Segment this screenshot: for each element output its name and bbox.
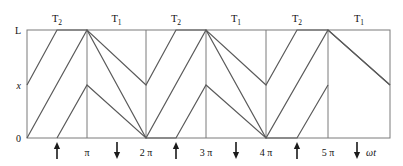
top-label-text: T1 <box>111 13 121 27</box>
y-axis-label-0: 0 <box>16 133 21 144</box>
arrow-up-5 <box>294 142 300 159</box>
top-label-T1: T1 <box>111 13 121 27</box>
waveform-upper-sawtooth <box>27 30 390 85</box>
top-label-text: T2 <box>52 13 62 27</box>
waveform-lower-sawtooth <box>27 30 390 138</box>
top-label-subscript: 2 <box>58 18 62 27</box>
top-label-T1: T1 <box>354 13 364 27</box>
top-label-text: T1 <box>231 13 241 27</box>
x-tick-label-3pi: 3 π <box>200 147 213 158</box>
arrow-head-up <box>294 142 300 149</box>
top-label-text: T2 <box>292 13 302 27</box>
top-label-T1: T1 <box>231 13 241 27</box>
top-label-text: T1 <box>354 13 364 27</box>
top-label-T2: T2 <box>52 13 62 27</box>
top-label-text: T2 <box>171 13 181 27</box>
arrow-up-3 <box>173 142 179 159</box>
waveform-secondary-lower-trace <box>57 85 328 138</box>
x-axis-label-omega-t: ωt <box>366 147 376 158</box>
x-tick-label-2pi: 2 π <box>140 147 153 158</box>
arrow-head-down <box>354 152 360 159</box>
y-axis-label-L: L <box>15 25 21 36</box>
arrow-down-2 <box>114 142 120 159</box>
y-axis-label-x: x <box>16 80 22 91</box>
arrow-head-down <box>233 152 239 159</box>
sawtooth-waveform-figure: Lx0T2T1T2T1T2T1π2 π3 π4 π5 πωt <box>0 0 403 166</box>
top-label-subscript: 1 <box>237 18 241 27</box>
arrow-down-4 <box>233 142 239 159</box>
top-label-subscript: 1 <box>360 18 364 27</box>
x-tick-label-1pi: π <box>84 147 89 158</box>
x-tick-label-5pi: 5 π <box>322 147 335 158</box>
plot-frame <box>27 30 390 138</box>
top-label-subscript: 2 <box>177 18 181 27</box>
top-label-T2: T2 <box>292 13 302 27</box>
arrow-down-6 <box>354 142 360 159</box>
arrow-up-1 <box>54 142 60 159</box>
top-label-subscript: 2 <box>298 18 302 27</box>
arrow-head-up <box>54 142 60 149</box>
top-label-subscript: 1 <box>118 18 122 27</box>
arrow-head-down <box>114 152 120 159</box>
x-tick-label-4pi: 4 π <box>260 147 273 158</box>
arrow-head-up <box>173 142 179 149</box>
top-label-T2: T2 <box>171 13 181 27</box>
plot-canvas: Lx0T2T1T2T1T2T1π2 π3 π4 π5 πωt <box>0 0 403 166</box>
